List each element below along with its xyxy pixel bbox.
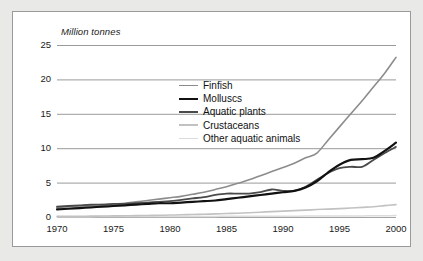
legend-swatch-icon [179,120,198,130]
chart-card: Million tonnes 0510152025 19701975198019… [12,11,411,247]
legend-swatch-icon [179,133,198,143]
legend-swatch-icon [179,107,198,117]
legend-item-finfish[interactable]: Finfish [179,79,329,92]
legend-item-aquatic-plants[interactable]: Aquatic plants [179,105,329,118]
legend-label: Crustaceans [203,120,259,131]
series-line-aquatic-plants [57,147,396,207]
legend-label: Finfish [203,80,232,91]
screenshot-root: Million tonnes 0510152025 19701975198019… [0,0,423,261]
legend-label: Other aquatic animals [203,133,300,144]
series-line-molluscs [57,143,396,210]
legend-swatch-icon [179,81,198,91]
legend-swatch-icon [179,94,198,104]
legend-label: Molluscs [203,93,242,104]
legend-item-crustaceans[interactable]: Crustaceans [179,119,329,132]
chart-legend: FinfishMolluscsAquatic plantsCrustaceans… [179,79,329,145]
legend-item-other-aquatic-animals[interactable]: Other aquatic animals [179,132,329,145]
legend-label: Aquatic plants [203,106,266,117]
chart-area: Million tonnes 0510152025 19701975198019… [13,12,412,248]
legend-item-molluscs[interactable]: Molluscs [179,92,329,105]
